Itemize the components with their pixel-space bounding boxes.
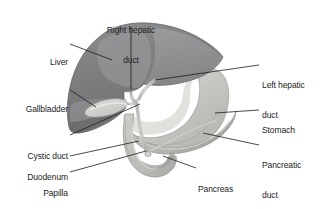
label-line: Gallbladder (4, 104, 68, 114)
anatomy-diagram-page: Right hepatic duct Liver Gallbladder Cys… (0, 0, 327, 209)
label-pancreatic-duct: Pancreatic duct (262, 140, 324, 209)
label-line: Papilla (4, 188, 68, 198)
label-line: duct (98, 55, 164, 65)
label-line: Pancreas (198, 184, 254, 194)
label-papilla-of-vater: Papilla of Vater (4, 168, 68, 209)
label-line: Right hepatic (98, 25, 164, 35)
label-liver: Liver (26, 37, 68, 87)
label-line: Stomach (262, 125, 324, 135)
label-line: Pancreatic (262, 160, 324, 170)
label-line: Liver (26, 57, 68, 67)
label-gallbladder: Gallbladder (4, 84, 68, 134)
label-pancreas: Pancreas (198, 164, 254, 209)
label-line: Left hepatic (262, 80, 324, 90)
label-line: duct (262, 190, 324, 200)
label-right-hepatic-duct: Right hepatic duct (98, 5, 164, 85)
